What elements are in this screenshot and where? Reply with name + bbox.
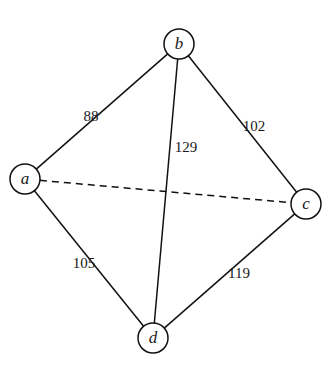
- node-label: d: [149, 328, 158, 347]
- edge-weight-d-c: 119: [228, 265, 250, 281]
- edges-group: [34, 54, 296, 328]
- edge-weight-b-d: 129: [175, 139, 198, 155]
- graph-diagram: 88129102105119 abcd: [0, 0, 329, 366]
- node-label: b: [175, 34, 184, 53]
- edge-weight-a-b: 88: [84, 108, 99, 124]
- graph-svg: 88129102105119 abcd: [0, 0, 329, 366]
- edge-weight-a-d: 105: [73, 255, 96, 271]
- node-label: c: [302, 194, 310, 213]
- node-d: d: [138, 323, 168, 353]
- node-label: a: [21, 169, 30, 188]
- node-b: b: [164, 29, 194, 59]
- edge-a-b: [36, 54, 167, 169]
- node-c: c: [291, 189, 321, 219]
- edge-weight-b-c: 102: [243, 118, 266, 134]
- edge-labels-group: 88129102105119: [73, 108, 266, 281]
- node-a: a: [10, 164, 40, 194]
